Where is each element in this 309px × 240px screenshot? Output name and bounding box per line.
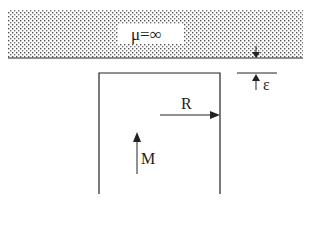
magnet-outline xyxy=(99,73,220,194)
gap-label: ε xyxy=(263,77,270,93)
radius-arrow-icon xyxy=(210,111,220,119)
region-label: μ=∞ xyxy=(131,26,162,43)
magnetization-arrow-icon xyxy=(133,132,141,142)
magnetization-label: M xyxy=(141,151,155,167)
radius-label: R xyxy=(181,96,192,112)
gap-arrow-up-icon xyxy=(252,74,260,81)
